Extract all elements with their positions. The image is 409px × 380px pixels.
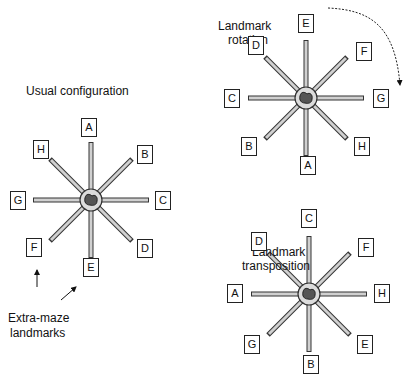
landmark-s: A bbox=[300, 156, 316, 175]
usual-configuration-title: Usual configuration bbox=[26, 84, 129, 98]
landmark-e: H bbox=[374, 284, 390, 303]
landmark-s: B bbox=[303, 355, 319, 374]
arrow-icon bbox=[61, 287, 76, 300]
landmark-nw: D bbox=[251, 232, 267, 251]
landmark-sw: G bbox=[244, 335, 260, 354]
landmark-e: G bbox=[373, 89, 389, 108]
landmark-s: E bbox=[83, 258, 99, 277]
maze-usual bbox=[33, 142, 149, 258]
landmark-ne: F bbox=[356, 42, 372, 61]
landmark-se: D bbox=[137, 239, 153, 258]
landmark-nw: H bbox=[33, 140, 49, 159]
landmark-sw: B bbox=[241, 137, 257, 156]
maze-rotation bbox=[248, 40, 364, 156]
landmark-ne: F bbox=[358, 238, 374, 257]
landmark-n: E bbox=[298, 14, 314, 33]
landmark-n: A bbox=[81, 118, 97, 137]
transposition-title-line2: transposition bbox=[242, 259, 310, 273]
landmark-nw: D bbox=[248, 36, 264, 55]
landmark-n: C bbox=[301, 209, 317, 228]
landmark-w: G bbox=[10, 191, 26, 210]
extra-maze-label-line1: Extra-maze bbox=[8, 311, 69, 325]
rotation-title-line1: Landmark bbox=[218, 19, 271, 33]
landmark-w: C bbox=[224, 89, 240, 108]
landmark-sw: F bbox=[26, 238, 42, 257]
landmark-w: A bbox=[227, 284, 243, 303]
landmark-se: H bbox=[354, 137, 370, 156]
extra-maze-label-line2: landmarks bbox=[10, 326, 65, 340]
landmark-ne: B bbox=[137, 145, 153, 164]
landmark-e: C bbox=[155, 191, 171, 210]
landmark-se: E bbox=[357, 335, 373, 354]
